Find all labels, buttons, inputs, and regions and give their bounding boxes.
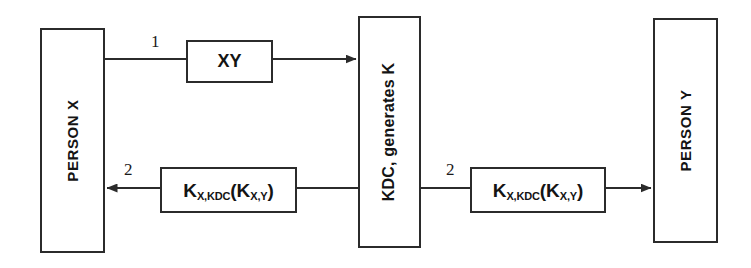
actor-label-person-y: PERSON Y xyxy=(677,89,694,171)
message-label-xy: XY xyxy=(217,51,241,72)
key-close-paren-y: ) xyxy=(577,180,583,201)
key-main-y: K xyxy=(493,180,507,201)
step-number-2-left: 2 xyxy=(124,160,133,180)
message-box-xy[interactable]: XY xyxy=(186,40,273,83)
key-inner-sub-y: X,Y xyxy=(560,190,577,202)
actor-box-person-x[interactable]: PERSON X xyxy=(40,28,105,253)
actor-box-kdc[interactable]: KDC, generates K xyxy=(358,16,421,248)
message-box-key-to-y[interactable]: KX,KDC(KX,Y) xyxy=(470,167,606,213)
step-number-1: 1 xyxy=(151,32,160,52)
key-sub-y: X,KDC xyxy=(506,190,539,202)
actor-label-person-x: PERSON X xyxy=(64,99,81,181)
key-sub-x: X,KDC xyxy=(197,190,230,202)
actor-box-person-y[interactable]: PERSON Y xyxy=(653,18,718,243)
key-inner-main-x: K xyxy=(237,180,251,201)
key-inner-sub-x: X,Y xyxy=(250,190,267,202)
step-number-2-right: 2 xyxy=(446,160,455,180)
message-label-key-to-x: KX,KDC(KX,Y) xyxy=(183,181,274,200)
message-box-key-to-x[interactable]: KX,KDC(KX,Y) xyxy=(160,167,297,213)
key-main-x: K xyxy=(183,180,197,201)
diagram-canvas: PERSON X KDC, generates K PERSON Y XY KX… xyxy=(0,0,751,268)
message-label-key-to-y: KX,KDC(KX,Y) xyxy=(493,181,584,200)
actor-label-kdc: KDC, generates K xyxy=(381,63,399,201)
key-close-paren-x: ) xyxy=(267,180,273,201)
key-inner-main-y: K xyxy=(546,180,560,201)
